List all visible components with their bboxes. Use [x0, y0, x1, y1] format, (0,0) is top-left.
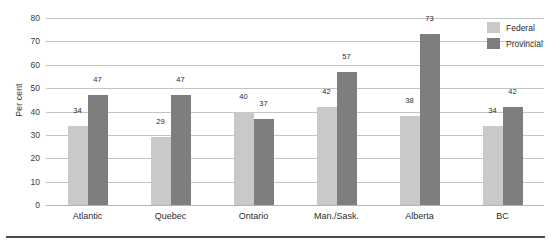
bar-value-label: 73	[418, 14, 442, 23]
category-label: Alberta	[375, 211, 465, 221]
y-tick-label: 70	[18, 36, 40, 46]
bar-federal	[317, 107, 337, 205]
y-tick-label: 30	[18, 130, 40, 140]
category-label: BC	[458, 211, 548, 221]
legend: FederalProvincial	[487, 22, 543, 49]
bar-group: 4037	[234, 18, 274, 205]
bar-group: 2947	[151, 18, 191, 205]
y-tick-label: 40	[18, 107, 40, 117]
y-tick-label: 50	[18, 83, 40, 93]
bar-group: 4257	[317, 18, 357, 205]
bar-provincial	[254, 119, 274, 205]
bar-value-label: 38	[398, 96, 422, 105]
bar-value-label: 37	[252, 99, 276, 108]
legend-swatch-federal	[487, 22, 500, 33]
y-axis-title: Per cent	[14, 65, 24, 135]
legend-item-federal[interactable]: Federal	[487, 22, 543, 33]
bar-value-label: 29	[149, 117, 173, 126]
bar-federal	[151, 137, 171, 205]
bar-federal	[483, 126, 503, 205]
bar-value-label: 34	[66, 106, 90, 115]
legend-swatch-provincial	[487, 38, 500, 49]
bar-provincial	[337, 72, 357, 205]
bar-value-label: 57	[335, 52, 359, 61]
bar-value-label: 42	[501, 87, 525, 96]
bar-provincial	[171, 95, 191, 205]
y-tick-label: 80	[18, 13, 40, 23]
bottom-divider	[6, 236, 545, 238]
plot-area: 344729474037425738733442	[46, 18, 544, 205]
bar-federal	[234, 112, 254, 206]
bar-provincial	[420, 34, 440, 205]
bar-group: 3873	[400, 18, 440, 205]
y-tick-label: 20	[18, 153, 40, 163]
bar-group: 3447	[68, 18, 108, 205]
bar-chart: Per cent 80706050403020100 3447294740374…	[0, 0, 551, 245]
y-tick-label: 0	[18, 200, 40, 210]
bar-provincial	[88, 95, 108, 205]
category-label: Man./Sask.	[292, 211, 382, 221]
bar-value-label: 42	[315, 87, 339, 96]
bar-value-label: 34	[481, 106, 505, 115]
legend-item-provincial[interactable]: Provincial	[487, 38, 543, 49]
y-tick-label: 10	[18, 177, 40, 187]
axis-baseline	[46, 205, 544, 206]
legend-label: Federal	[506, 23, 535, 33]
category-label: Quebec	[126, 211, 216, 221]
bar-provincial	[503, 107, 523, 205]
bar-value-label: 47	[86, 75, 110, 84]
category-label: Ontario	[209, 211, 299, 221]
bar-value-label: 47	[169, 75, 193, 84]
bar-federal	[400, 116, 420, 205]
legend-label: Provincial	[506, 39, 543, 49]
category-label: Atlantic	[43, 211, 133, 221]
y-tick-label: 60	[18, 60, 40, 70]
bar-federal	[68, 126, 88, 205]
